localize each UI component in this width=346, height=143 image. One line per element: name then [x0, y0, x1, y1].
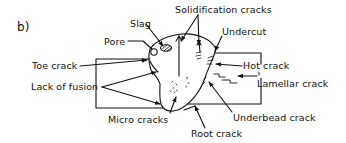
label-slag: Slag	[130, 19, 151, 29]
label-solidification-cracks: Solidification cracks	[175, 5, 272, 15]
label-toe-crack: Toe crack	[32, 61, 77, 71]
label-undercut: Undercut	[222, 27, 266, 37]
label-lamellar-crack: Lamellar crack	[257, 79, 328, 89]
weld-defects-diagram: b) Slag Pore Solidification cracks Under…	[0, 0, 346, 143]
pore-shape	[151, 49, 157, 55]
label-hot-crack: Hot crack	[243, 61, 289, 71]
label-micro-cracks: Micro cracks	[108, 115, 168, 125]
label-root-crack: Root crack	[191, 129, 242, 139]
label-underbead-crack: Underbead crack	[233, 113, 316, 123]
label-lack-of-fusion: Lack of fusion	[31, 82, 98, 92]
label-pore: Pore	[104, 37, 125, 47]
panel-label: b)	[17, 21, 30, 33]
weld-bead	[149, 34, 216, 111]
